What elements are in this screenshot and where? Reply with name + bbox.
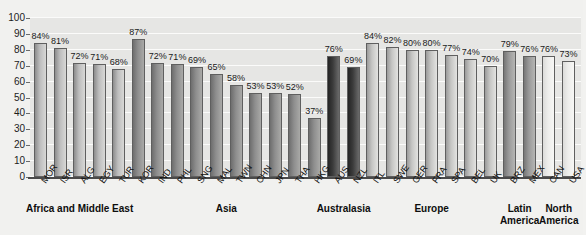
bar-kor[interactable] — [132, 39, 145, 177]
bar-value-label-fra: 80% — [423, 39, 441, 48]
region-label-asia: Asia — [216, 203, 237, 215]
bar-value-label-isr: 81% — [51, 37, 69, 46]
bar-mex[interactable] — [523, 56, 536, 177]
bar-value-label-mor: 84% — [31, 32, 49, 41]
y-tick-label-60: 60 — [14, 77, 25, 87]
bar-egy[interactable] — [93, 64, 106, 177]
bar-ger[interactable] — [406, 50, 419, 177]
region-label-latin-america: Latin America — [500, 203, 539, 227]
y-tick-label-90: 90 — [14, 29, 25, 39]
bar-value-label-kor: 87% — [129, 28, 147, 37]
region-label-africa-and-middle-east: Africa and Middle East — [26, 203, 133, 215]
bar-value-label-jpn: 53% — [266, 82, 284, 91]
bar-tha[interactable] — [288, 94, 301, 177]
bar-value-label-tur: 68% — [110, 58, 128, 67]
bar-value-label-uk: 70% — [481, 55, 499, 64]
bar-uk[interactable] — [484, 66, 497, 177]
region-label-north-america: North America — [539, 203, 578, 227]
bar-value-label-bel: 74% — [462, 48, 480, 57]
bar-jpn[interactable] — [269, 93, 282, 177]
y-tick-label-80: 80 — [14, 45, 25, 55]
bar-swe[interactable] — [386, 47, 399, 177]
bar-value-label-alg: 72% — [71, 52, 89, 61]
bar-mal[interactable] — [210, 74, 223, 177]
bar-sng[interactable] — [190, 67, 203, 177]
bar-mor[interactable] — [34, 43, 47, 177]
bars-layer: 84%81%72%71%68%87%72%71%69%65%58%53%53%5… — [30, 18, 581, 177]
bar-value-label-spa: 77% — [442, 44, 460, 53]
bar-bel[interactable] — [464, 59, 477, 177]
bar-value-label-twn: 58% — [227, 74, 245, 83]
bar-value-label-brz: 79% — [501, 40, 519, 49]
bar-twn[interactable] — [230, 85, 243, 177]
y-tick-label-40: 40 — [14, 108, 25, 118]
y-axis: 0102030405060708090100 — [0, 0, 30, 195]
bar-aus[interactable] — [327, 56, 340, 177]
bar-brz[interactable] — [503, 51, 516, 177]
y-tick-label-0: 0 — [19, 172, 25, 182]
bar-value-label-tha: 52% — [286, 83, 304, 92]
bar-alg[interactable] — [73, 63, 86, 177]
bar-tur[interactable] — [112, 69, 125, 177]
region-label-australasia: Australasia — [317, 203, 371, 215]
bar-value-label-hkg: 37% — [305, 107, 323, 116]
bar-value-label-itl: 84% — [364, 32, 382, 41]
bar-phl[interactable] — [171, 64, 184, 177]
bar-nzl[interactable] — [347, 67, 360, 177]
bar-value-label-mal: 65% — [207, 63, 225, 72]
bar-value-label-aus: 76% — [325, 45, 343, 54]
bar-chn[interactable] — [249, 93, 262, 177]
bar-ind[interactable] — [151, 63, 164, 177]
y-tick-label-10: 10 — [14, 156, 25, 166]
bar-value-label-nzl: 69% — [344, 56, 362, 65]
y-tick-label-50: 50 — [14, 93, 25, 103]
y-tick-label-20: 20 — [14, 140, 25, 150]
bar-spa[interactable] — [445, 55, 458, 177]
region-group-labels: Africa and Middle EastAsiaAustralasiaEur… — [0, 203, 583, 235]
bar-itl[interactable] — [366, 43, 379, 177]
bar-value-label-can: 76% — [540, 45, 558, 54]
region-label-europe: Europe — [414, 203, 448, 215]
bar-can[interactable] — [542, 56, 555, 177]
bar-value-label-ger: 80% — [403, 39, 421, 48]
bar-value-label-phl: 71% — [168, 53, 186, 62]
bar-value-label-usa: 73% — [559, 50, 577, 59]
bar-usa[interactable] — [562, 61, 575, 177]
bar-value-label-mex: 76% — [520, 45, 538, 54]
y-tick-label-70: 70 — [14, 61, 25, 71]
bar-fra[interactable] — [425, 50, 438, 177]
bar-isr[interactable] — [54, 48, 67, 177]
y-tick-label-100: 100 — [8, 13, 25, 23]
bar-value-label-ind: 72% — [149, 52, 167, 61]
bar-value-label-chn: 53% — [247, 82, 265, 91]
y-tick-label-30: 30 — [14, 124, 25, 134]
bar-value-label-swe: 82% — [383, 36, 401, 45]
bar-value-label-sng: 69% — [188, 56, 206, 65]
bar-value-label-egy: 71% — [90, 53, 108, 62]
